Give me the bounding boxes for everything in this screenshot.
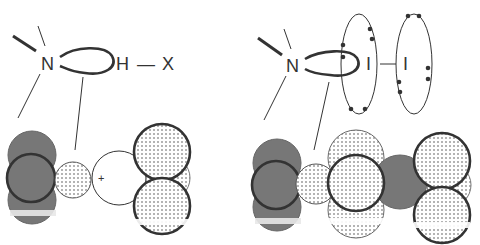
electron-dot bbox=[417, 14, 422, 19]
iodine-1-sphere-front bbox=[328, 155, 384, 211]
right-panel-lewis: N I I bbox=[258, 14, 432, 150]
substituent-glare bbox=[10, 210, 56, 216]
electron-dot bbox=[341, 55, 346, 60]
halogen-sphere-bottom bbox=[134, 178, 190, 234]
n-substituent-bond bbox=[38, 26, 45, 46]
halogen-glare bbox=[135, 219, 191, 225]
nitrogen-sphere bbox=[55, 162, 91, 198]
substituent-sphere-front bbox=[252, 161, 300, 209]
electron-dot bbox=[426, 77, 431, 82]
n-substituent-bond bbox=[258, 38, 282, 55]
electron-dot bbox=[370, 37, 375, 42]
n-substituent-bond bbox=[13, 36, 36, 51]
diagram-canvas: N H — X + N bbox=[0, 0, 480, 245]
iodine-1-label: I bbox=[366, 54, 371, 74]
iodine-2-glare bbox=[414, 222, 470, 228]
lone-pair-pointer-line bbox=[75, 77, 83, 150]
iodine-2-label: I bbox=[403, 54, 408, 74]
electron-dot bbox=[368, 27, 373, 32]
electron-dot bbox=[341, 43, 346, 48]
cation-charge-label: + bbox=[98, 172, 104, 184]
electron-dot bbox=[349, 107, 354, 112]
electron-dot bbox=[398, 90, 403, 95]
iodine-2-sphere-top bbox=[414, 133, 470, 189]
hx-bond: — bbox=[137, 54, 155, 74]
lone-pair-pointer-line bbox=[314, 82, 329, 150]
left-panel-spacefill: + bbox=[7, 124, 191, 234]
substituent-glare bbox=[255, 218, 301, 224]
nitrogen-atom-label: N bbox=[286, 56, 299, 76]
nitrogen-atom-label: N bbox=[41, 54, 54, 74]
electron-dot bbox=[426, 66, 431, 71]
lone-pair-lobe bbox=[305, 51, 358, 75]
substituent-sphere-front bbox=[7, 154, 55, 202]
hydrogen-atom-label: H bbox=[116, 54, 129, 74]
electron-dot bbox=[397, 80, 402, 85]
right-panel-spacefill bbox=[252, 130, 471, 243]
n-substituent-bond bbox=[264, 76, 286, 120]
halogen-atom-label: X bbox=[162, 54, 174, 74]
iodine-2-sphere-bottom bbox=[414, 187, 470, 243]
n-substituent-bond bbox=[18, 74, 40, 118]
lone-pair-lobe bbox=[60, 48, 113, 73]
n-substituent-bond bbox=[284, 29, 291, 49]
iodine-1-glare bbox=[328, 218, 384, 224]
iodine-2-electron-shell bbox=[396, 14, 432, 114]
halogen-sphere-top bbox=[134, 124, 190, 180]
electron-dot bbox=[363, 107, 368, 112]
electron-dot bbox=[406, 14, 411, 19]
